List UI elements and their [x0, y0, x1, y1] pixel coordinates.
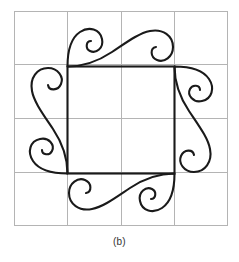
- figure-panel: (b): [0, 0, 239, 262]
- left-scroll-ornament: [30, 68, 68, 174]
- right-scroll-path: [175, 67, 213, 173]
- left-scroll-path: [30, 68, 68, 174]
- ornament-figure: [0, 0, 239, 262]
- top-scroll-ornament: [68, 29, 174, 67]
- figure-caption: (b): [0, 236, 239, 247]
- top-scroll-path: [68, 29, 174, 67]
- right-scroll-ornament: [175, 67, 213, 173]
